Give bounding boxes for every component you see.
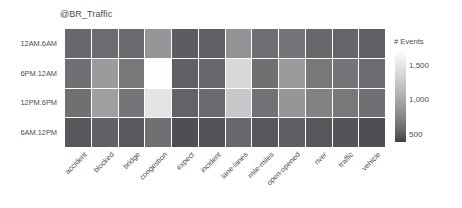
heatmap-cell[interactable] [145, 59, 171, 88]
x-axis-tick: vehicle [358, 149, 385, 207]
heatmap-cell[interactable] [333, 89, 359, 118]
heatmap-cell[interactable] [306, 29, 332, 58]
heatmap-cell[interactable] [306, 89, 332, 118]
x-axis-labels: accidentblockedbridgecongestionexpectinc… [65, 149, 385, 207]
heatmap-cell[interactable] [172, 59, 198, 88]
heatmap-cell[interactable] [226, 118, 252, 147]
legend-colorbar [395, 50, 406, 142]
x-axis-tick-label: expect [174, 150, 196, 172]
x-axis-tick-label: blocked [91, 150, 115, 174]
x-axis-tick: expect [172, 149, 199, 207]
heatmap-cell[interactable] [65, 118, 91, 147]
legend-tick-label: 1,000 [409, 95, 429, 104]
heatmap-cell[interactable] [172, 118, 198, 147]
heatmap-cell[interactable] [65, 29, 91, 58]
heatmap-cell[interactable] [306, 59, 332, 88]
x-axis-tick-label: vehicle [360, 150, 383, 173]
heatmap-cell[interactable] [199, 89, 225, 118]
heatmap-cell[interactable] [119, 59, 145, 88]
heatmap-cell[interactable] [199, 29, 225, 58]
legend-tick-label: 1,500 [409, 61, 429, 70]
heatmap-cell[interactable] [92, 29, 118, 58]
heatmap-cell[interactable] [333, 59, 359, 88]
legend-title: # Events [394, 37, 424, 46]
heatmap-cell[interactable] [145, 29, 171, 58]
heatmap-cell[interactable] [333, 118, 359, 147]
x-axis-tick: accident [65, 149, 92, 207]
x-axis-tick-label: bridge [121, 150, 142, 171]
heatmap-cell[interactable] [119, 89, 145, 118]
heatmap-cell[interactable] [172, 29, 198, 58]
x-axis-tick: congestion [145, 149, 172, 207]
heatmap-cell[interactable] [252, 59, 278, 88]
y-axis-tick-label: 6AM.12PM [0, 118, 61, 148]
x-axis-tick-label: traffic [337, 150, 356, 169]
heatmap-cell[interactable] [359, 118, 385, 147]
heatmap-cell[interactable] [359, 59, 385, 88]
x-axis-tick: lane-lanes [225, 149, 252, 207]
heatmap-cell[interactable] [279, 118, 305, 147]
legend-tick-labels: 1,5001,000500 [409, 50, 459, 142]
heatmap-cell[interactable] [226, 29, 252, 58]
heatmap-cell[interactable] [92, 118, 118, 147]
y-axis-tick-label: 12PM.6PM [0, 88, 61, 118]
x-axis-tick-label: river [312, 150, 329, 167]
heatmap-panel [65, 29, 385, 147]
legend: # Events 1,5001,000500 [392, 37, 462, 149]
heatmap-cell[interactable] [226, 59, 252, 88]
page-title: @BR_Traffic [60, 9, 112, 19]
legend-tick-label: 500 [409, 129, 422, 138]
y-axis-labels: 12AM.6AM6PM.12AM12PM.6PM6AM.12PM [0, 29, 61, 147]
x-axis-tick: incident [198, 149, 225, 207]
x-axis-tick-label: accident [63, 150, 89, 176]
heatmap-cell[interactable] [172, 89, 198, 118]
heatmap-cell[interactable] [199, 118, 225, 147]
x-axis-tick: open-opened [278, 149, 305, 207]
heatmap-cell[interactable] [359, 29, 385, 58]
heatmap-cell[interactable] [226, 89, 252, 118]
heatmap-cell[interactable] [333, 29, 359, 58]
x-axis-tick: blocked [92, 149, 119, 207]
heatmap-cell[interactable] [145, 118, 171, 147]
heatmap-cell[interactable] [252, 29, 278, 58]
heatmap-cell[interactable] [306, 118, 332, 147]
heatmap-cell[interactable] [252, 89, 278, 118]
heatmap-cell[interactable] [65, 59, 91, 88]
heatmap-cell[interactable] [279, 29, 305, 58]
heatmap-grid [65, 29, 385, 147]
heatmap-cell[interactable] [92, 89, 118, 118]
heatmap-cell[interactable] [145, 89, 171, 118]
heatmap-cell[interactable] [199, 59, 225, 88]
y-axis-tick-label: 12AM.6AM [0, 29, 61, 59]
y-axis-tick-label: 6PM.12AM [0, 59, 61, 89]
x-axis-tick: traffic [332, 149, 359, 207]
x-axis-tick-label: incident [198, 150, 222, 174]
heatmap-cell[interactable] [279, 89, 305, 118]
heatmap-cell[interactable] [119, 118, 145, 147]
x-axis-tick: river [305, 149, 332, 207]
heatmap-cell[interactable] [119, 29, 145, 58]
heatmap-cell[interactable] [65, 89, 91, 118]
heatmap-cell[interactable] [359, 89, 385, 118]
heatmap-cell[interactable] [92, 59, 118, 88]
heatmap-cell[interactable] [252, 118, 278, 147]
heatmap-cell[interactable] [279, 59, 305, 88]
heatmap-figure: @BR_Traffic 12AM.6AM6PM.12AM12PM.6PM6AM.… [0, 0, 462, 208]
